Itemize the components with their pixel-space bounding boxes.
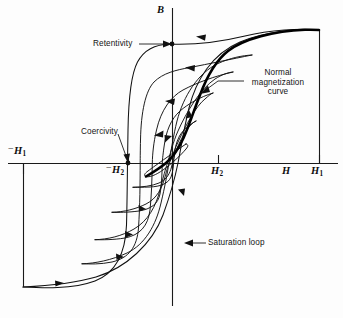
arrowhead-loop5-asc	[165, 135, 173, 143]
retentivity-arrowhead	[163, 41, 172, 48]
axis-tick-label-pos-h1: H1	[311, 165, 323, 176]
arrowhead-saturation-top	[196, 35, 206, 41]
arrowhead-loop3-top	[165, 99, 175, 106]
retentivity-label: Retentivity	[93, 39, 132, 49]
b-axis-label: B	[157, 4, 164, 15]
axis-tick-label-pos-h2: H2	[211, 165, 223, 176]
hysteresis-diagram-svg	[0, 0, 343, 318]
saturation-arrowhead	[184, 240, 193, 247]
h-axis-label: H	[282, 165, 290, 176]
axis-tick-label-neg-h1: −H1	[8, 145, 26, 156]
flow-arrowheads-group	[55, 35, 206, 287]
coercivity-label: Coercivity	[81, 127, 118, 137]
minor-loop-2	[82, 55, 252, 264]
arrowhead-saturation-bottom	[55, 281, 64, 287]
coercivity-leader-line	[118, 134, 126, 156]
normal-curve-label-line-2: magnetization	[246, 78, 310, 88]
axis-tick-label-neg-h2: −H2	[106, 164, 124, 175]
minor-loop-3	[95, 72, 233, 240]
arrowhead-loop5-lower	[178, 189, 185, 197]
key-points-group	[126, 42, 175, 166]
normal-curve-label-line-1: Normal	[246, 68, 310, 78]
hysteresis-figure: B −H1 −H2 H2 H H1 Retentivity Coercivity…	[0, 0, 343, 318]
normal-magnetization-curve-label: Normal magnetization curve	[246, 68, 310, 97]
normal-curve-label-line-3: curve	[246, 87, 310, 97]
saturation-loop-label: Saturation loop	[208, 238, 265, 248]
